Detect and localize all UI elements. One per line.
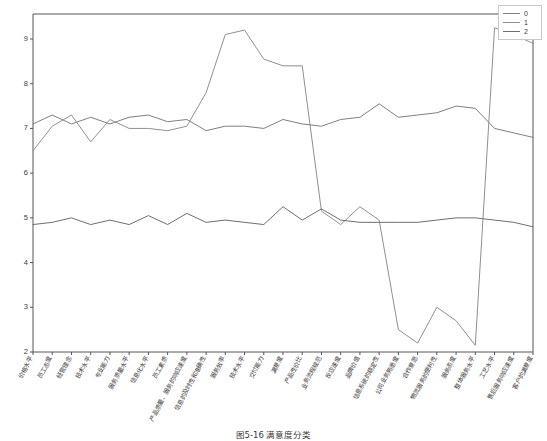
y-tick-label: 7 bbox=[24, 123, 28, 132]
legend-label: 2 bbox=[524, 27, 528, 36]
y-tick-labels: 23456789 bbox=[24, 34, 28, 356]
x-tick-label: 服务效率 bbox=[209, 355, 227, 380]
x-tick-label: 技术水平 bbox=[228, 355, 246, 380]
legend-swatch-icon bbox=[503, 31, 520, 32]
legend-item-2[interactable]: 2 bbox=[503, 27, 537, 36]
y-tick-label: 2 bbox=[24, 347, 28, 356]
x-tick-label: 反应速度 bbox=[324, 355, 342, 380]
y-tick-label: 9 bbox=[24, 34, 28, 43]
series-line-0 bbox=[33, 104, 533, 138]
x-tick-label: 整体服务水平 bbox=[453, 355, 477, 391]
legend-swatch-icon bbox=[503, 13, 520, 14]
y-tick-label: 4 bbox=[24, 258, 28, 267]
series-line-1 bbox=[33, 28, 533, 345]
x-tick-label: 技术水平 bbox=[74, 355, 92, 380]
x-tick-labels: 价格水平员工态度经营理念技术水平专业能力服务质量水平信息化水平员工素质产品质量、… bbox=[16, 355, 534, 422]
x-tick-label: 员工素质 bbox=[151, 355, 169, 380]
x-tick-label: 专业能力 bbox=[93, 355, 111, 380]
x-tick-label: 满意度 bbox=[269, 355, 285, 375]
x-tick-label: 经营理念 bbox=[55, 355, 73, 380]
x-tick-label: 服务质量水平 bbox=[107, 355, 131, 391]
x-tick-label: 品牌价值 bbox=[343, 355, 361, 380]
legend-item-0[interactable]: 0 bbox=[503, 9, 537, 18]
legend-swatch-icon bbox=[503, 22, 520, 23]
x-tick-label: 工艺水平 bbox=[478, 355, 496, 380]
y-tick-label: 8 bbox=[24, 79, 28, 88]
figure-caption: 图5-16 满意度分类 bbox=[0, 428, 547, 440]
legend-label: 1 bbox=[524, 18, 528, 27]
y-tick-label: 3 bbox=[24, 302, 28, 311]
x-tick-label: 交付能力 bbox=[247, 355, 265, 380]
line-chart-plot: 23456789 价格水平员工态度经营理念技术水平专业能力服务质量水平信息化水平… bbox=[0, 0, 547, 441]
series-group bbox=[33, 28, 533, 345]
series-line-2 bbox=[33, 207, 533, 227]
x-tick-label: 价格水平 bbox=[16, 355, 34, 380]
figure-container: 23456789 价格水平员工态度经营理念技术水平专业能力服务质量水平信息化水平… bbox=[0, 0, 547, 441]
x-tick-label: 信息化水平 bbox=[129, 355, 150, 385]
legend-item-1[interactable]: 1 bbox=[503, 18, 537, 27]
chart-legend: 012 bbox=[498, 5, 542, 40]
plot-frame bbox=[33, 14, 533, 352]
x-tick-label: 合作意愿 bbox=[401, 355, 419, 380]
x-tick-label: 产品性价比 bbox=[283, 355, 304, 385]
y-tick-label: 5 bbox=[24, 213, 28, 222]
x-tick-label: 业务流程规范 bbox=[299, 355, 323, 391]
y-tick-label: 6 bbox=[24, 168, 28, 177]
x-tick-label: 客户的满意度 bbox=[511, 355, 535, 391]
x-tick-label: 服务态度 bbox=[440, 355, 458, 380]
legend-label: 0 bbox=[524, 9, 528, 18]
x-tick-label: 员工态度 bbox=[36, 355, 54, 380]
